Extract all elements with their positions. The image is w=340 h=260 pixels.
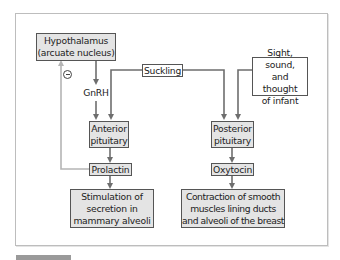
contraction-smooth-muscle-node: Contraction of smooth muscles lining duc…: [181, 189, 285, 228]
oxytocin-node: Oxytocin: [211, 163, 254, 176]
anterior-pituitary-node: Anterior pituitary: [89, 121, 129, 148]
prolactin-node: Prolactin: [89, 163, 132, 176]
suckling-arrows: [108, 70, 227, 120]
sight-arrow: [235, 70, 252, 120]
inhibition-minus-icon: [63, 70, 72, 79]
hypothalamus-node: Hypothalamus (arcuate nucleus): [36, 33, 116, 61]
suckling-node: Suckling: [142, 64, 183, 77]
sight-sound-thought-node: Sight, sound, and thought of infant: [252, 57, 308, 96]
stimulation-secretion-node: Stimulation of secretion in mammary alve…: [70, 189, 154, 228]
figure-caption-bar: [16, 255, 71, 260]
gnrh-label: GnRH: [80, 87, 112, 99]
posterior-pituitary-node: Posterior pituitary: [211, 121, 254, 148]
